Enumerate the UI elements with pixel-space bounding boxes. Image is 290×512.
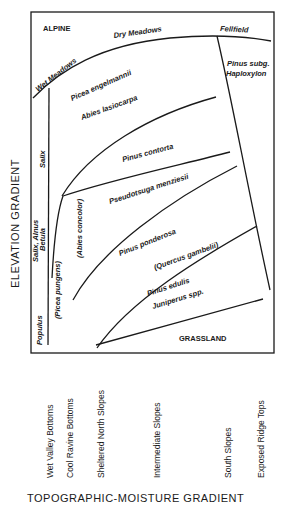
vegetation-gradient-diagram: ALPINE Wet Meadows Dry Meadows Fellfield… — [0, 0, 290, 512]
x-category-south-slopes: South Slopes — [223, 427, 233, 478]
x-category-wet-valley-bottoms: Wet Valley Bottoms — [45, 405, 55, 478]
label-picea-pungens: (Picea pungens) — [53, 261, 62, 319]
x-category-exposed-ridge-tops: Exposed Ridge Tops — [256, 400, 266, 478]
label-abies-concolor: (Abies concolor) — [75, 198, 84, 258]
x-category-cool-ravine-bottoms: Cool Ravine Bottoms — [65, 398, 75, 478]
label-pinus-ponderosa: Pinus ponderosa — [117, 227, 177, 258]
x-category-intermediate-slopes: Intermediate Slopes — [152, 402, 162, 478]
label-abies-lasiocarpa: Abies lasiocarpa — [79, 93, 139, 122]
label-wet-meadows: Wet Meadows — [34, 56, 79, 94]
label-grassland: GRASSLAND — [179, 334, 227, 343]
y-axis-title: ELEVATION GRADIENT — [9, 159, 21, 288]
x-axis-title: TOPOGRAPHIC-MOISTURE GRADIENT — [27, 492, 244, 504]
label-populus: Populus — [35, 315, 44, 345]
label-quercus: (Quercus gambelii) — [153, 240, 220, 272]
x-category-sheltered-north-slopes: Sheltered North Slopes — [96, 390, 106, 478]
label-betula: Betula — [38, 228, 47, 251]
label-salix: Salix — [38, 150, 47, 168]
label-pinus-contorta: Pinus contorta — [121, 142, 174, 164]
label-alpine: ALPINE — [43, 24, 71, 33]
label-fellfield: Fellfield — [220, 24, 249, 34]
label-pseudotsuga: Pseudotsuga menziesii — [108, 171, 191, 205]
riparian-divider — [48, 88, 49, 345]
label-haploxylon: Haploxylon — [226, 69, 267, 78]
label-pinus-subg: Pinus subg. — [227, 59, 270, 68]
label-dry-meadows: Dry Meadows — [113, 24, 162, 40]
